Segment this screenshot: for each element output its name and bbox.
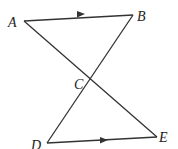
segment-bd <box>47 15 133 143</box>
label-a: A <box>7 15 17 30</box>
parallel-arrow-icon-ab <box>77 11 85 18</box>
label-b: B <box>137 9 146 24</box>
label-d: D <box>30 138 41 149</box>
parallel-arrow-icon-de <box>100 137 108 144</box>
geometry-diagram: A B C D E <box>0 0 178 149</box>
label-c: C <box>74 77 84 92</box>
label-e: E <box>158 130 168 145</box>
